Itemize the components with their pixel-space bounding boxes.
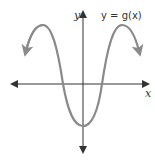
left-end-arrow (26, 25, 43, 51)
y-axis-label: y (73, 9, 81, 22)
function-label: y = g(x) (101, 10, 142, 21)
graph-canvas: y x y = g(x) (0, 0, 155, 160)
x-axis-label: x (145, 87, 152, 100)
